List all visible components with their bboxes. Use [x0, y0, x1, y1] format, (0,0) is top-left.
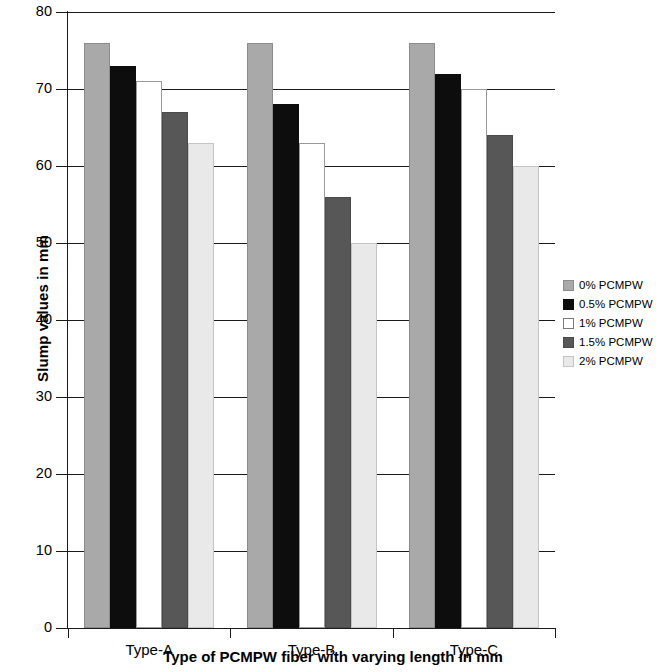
legend-item: 0.5% PCMPW [563, 295, 653, 314]
legend-item: 0% PCMPW [563, 276, 653, 295]
bars-and-gridlines [68, 12, 555, 628]
legend: 0% PCMPW0.5% PCMPW1% PCMPW1.5% PCMPW2% P… [563, 276, 653, 371]
y-axis-tick-label: 80 [12, 3, 52, 19]
bar [188, 143, 214, 628]
bar [325, 197, 351, 628]
y-axis-tick-label: 60 [12, 157, 52, 173]
y-axis-tick-label: 20 [12, 465, 52, 481]
y-axis-tick-label: 40 [12, 311, 52, 327]
bar [110, 66, 136, 628]
legend-swatch-icon [563, 337, 574, 348]
legend-item: 1.5% PCMPW [563, 333, 653, 352]
x-axis-line [56, 628, 556, 629]
bar [299, 143, 325, 628]
y-axis-tick-label: 0 [12, 619, 52, 635]
bar [409, 43, 435, 628]
x-axis-tick [393, 628, 394, 638]
legend-item: 1% PCMPW [563, 314, 653, 333]
x-axis-tick [555, 628, 556, 638]
legend-swatch-icon [563, 356, 574, 367]
bar [84, 43, 110, 628]
x-axis-tick [230, 628, 231, 638]
gridline [68, 12, 555, 13]
plot-area [68, 12, 555, 628]
bar [351, 243, 377, 628]
legend-label: 1.5% PCMPW [579, 337, 653, 349]
legend-label: 2% PCMPW [579, 356, 643, 368]
bar [513, 166, 539, 628]
bar [487, 135, 513, 628]
legend-swatch-icon [563, 318, 574, 329]
y-axis-tick-label: 30 [12, 388, 52, 404]
bar [461, 89, 487, 628]
bar [162, 112, 188, 628]
legend-label: 0.5% PCMPW [579, 299, 653, 311]
bar [136, 81, 162, 628]
y-axis-tick-label: 70 [12, 80, 52, 96]
legend-item: 2% PCMPW [563, 352, 653, 371]
bar [273, 104, 299, 628]
y-axis-tick-label: 10 [12, 542, 52, 558]
legend-label: 0% PCMPW [579, 280, 643, 292]
legend-swatch-icon [563, 280, 574, 291]
bar [435, 74, 461, 628]
y-axis-tick-label: 50 [12, 234, 52, 250]
legend-swatch-icon [563, 299, 574, 310]
bar [247, 43, 273, 628]
x-axis-tick [68, 628, 69, 638]
x-axis-title: Type of PCMPW fiber with varying length … [0, 648, 666, 665]
legend-label: 1% PCMPW [579, 318, 643, 330]
